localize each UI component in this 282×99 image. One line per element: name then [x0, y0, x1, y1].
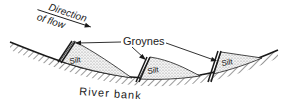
leader-groyne-3 [166, 43, 214, 60]
river-bank-label: River bank [79, 85, 142, 99]
groynes-diagram: Silt Silt Silt Direction of flow Groynes… [0, 0, 282, 99]
leader-groyne-1 [78, 42, 121, 43]
groynes-label: Groynes [123, 35, 165, 47]
flow-arrow-head-icon [84, 23, 91, 30]
flow-direction: Direction of flow [34, 0, 95, 38]
